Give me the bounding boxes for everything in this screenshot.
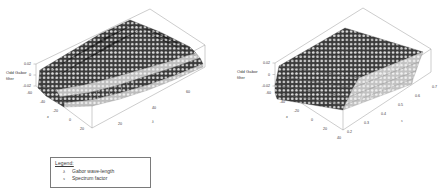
svg-text:0.3: 0.3 — [364, 121, 369, 125]
surface-mesh — [38, 20, 203, 107]
right-plot-svg: 0.02 0 -0.02 Odd Gabor filter -60 -40 -2… — [223, 0, 447, 160]
left-plot-svg: 0.02 0 -0.02 Odd Gabor filter -60 -40 -2… — [0, 0, 223, 160]
figure-canvas: 0.02 0 -0.02 Odd Gabor filter -60 -40 -2… — [0, 0, 447, 192]
z-tick-label: 0.02 — [24, 62, 31, 66]
legend-symbol-lambda: λ — [56, 168, 72, 175]
legend-symbol-s: s — [56, 175, 72, 182]
z-tick-label: 0.02 — [263, 61, 270, 65]
svg-text:0.7: 0.7 — [432, 85, 437, 89]
z-axis-label-line2: filter — [6, 76, 15, 81]
legend-label-spectrum: Spectrum factor — [72, 175, 107, 182]
svg-text:0.2: 0.2 — [347, 130, 352, 134]
svg-text:60: 60 — [186, 90, 190, 94]
svg-text:20: 20 — [118, 122, 122, 126]
legend-entry-spectrum: s Spectrum factor — [56, 175, 147, 182]
z-tick-label: -0.02 — [23, 84, 31, 88]
surface-plot-left: 0.02 0 -0.02 Odd Gabor filter -60 -40 -2… — [0, 0, 223, 160]
svg-text:0.6: 0.6 — [415, 94, 420, 98]
legend-entry-wavelength: λ Gabor wave-length — [56, 168, 147, 175]
legend-label-wavelength: Gabor wave-length — [72, 168, 114, 175]
svg-text:-60: -60 — [266, 91, 271, 95]
svg-text:-20: -20 — [53, 109, 58, 113]
y-axis-name: λ — [151, 119, 154, 124]
surface-mesh — [275, 28, 423, 110]
svg-text:40: 40 — [337, 136, 341, 140]
y-axis-name: s — [401, 118, 403, 123]
x-axis-name: x — [285, 114, 288, 119]
z-tick-label: 0 — [29, 73, 31, 77]
z-tick-label: 0 — [268, 73, 270, 77]
svg-text:0.5: 0.5 — [398, 103, 403, 107]
svg-text:-60: -60 — [27, 91, 32, 95]
z-axis-label-line1: Odd Gabor — [237, 69, 258, 74]
svg-text:20: 20 — [323, 127, 327, 131]
legend-title: Legend: — [55, 160, 147, 166]
svg-text:-40: -40 — [280, 100, 285, 104]
z-axis-ticks — [34, 64, 37, 86]
x-axis-name: x — [46, 114, 49, 119]
legend-box: Legend: λ Gabor wave-length s Spectrum f… — [50, 157, 151, 188]
svg-text:-40: -40 — [40, 100, 45, 104]
svg-text:-20: -20 — [294, 109, 299, 113]
z-tick-label: -0.02 — [262, 84, 270, 88]
z-axis-label-line2: filter — [237, 75, 246, 80]
svg-text:0: 0 — [311, 118, 313, 122]
svg-text:0.4: 0.4 — [381, 112, 386, 116]
z-axis-ticks — [273, 63, 276, 86]
z-axis-label-line1: Odd Gabor — [6, 70, 27, 75]
svg-text:40: 40 — [152, 106, 156, 110]
svg-text:0: 0 — [69, 118, 71, 122]
surface-plot-right: 0.02 0 -0.02 Odd Gabor filter -60 -40 -2… — [223, 0, 447, 160]
svg-text:20: 20 — [80, 127, 84, 131]
